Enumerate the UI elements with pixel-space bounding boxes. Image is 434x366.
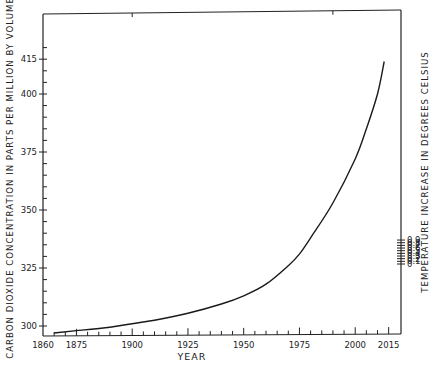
y-tick-label: 400	[21, 89, 37, 99]
co2-temperature-chart: 300325350375400415 00.10.20.30.40.50.60.…	[0, 0, 434, 366]
x-tick-label: 1975	[289, 340, 311, 350]
y-right-axis-title: TEMPERATURE INCREASE IN DEGREES CELSIUS	[420, 51, 430, 293]
y-tick-label: 300	[21, 321, 37, 331]
y-tick-label: 415	[21, 54, 37, 64]
x-tick-label: 1900	[121, 340, 143, 350]
y-right-tick-label: 0.9	[407, 235, 421, 245]
y-axis-title: CARBON DIOXIDE CONCENTRATION IN PARTS PE…	[5, 0, 15, 359]
top-border	[43, 10, 401, 14]
x-tick-label: 1875	[66, 340, 88, 350]
y-tick-label: 325	[21, 263, 37, 273]
x-tick-label: 1925	[177, 340, 199, 350]
y-tick-label: 375	[21, 147, 37, 157]
x-tick-label: 2015	[378, 340, 400, 350]
x-tick-label: 2000	[344, 340, 366, 350]
y-tick-label: 350	[21, 205, 37, 215]
x-tick-label: 1860	[32, 340, 54, 350]
x-tick-label: 1950	[233, 340, 255, 350]
x-axis-title: YEAR	[177, 351, 207, 362]
bottom-axis	[43, 334, 401, 336]
co2-curve-line	[54, 62, 384, 334]
x-axis-ticks: 18601875190019251950197520002015	[32, 327, 399, 350]
